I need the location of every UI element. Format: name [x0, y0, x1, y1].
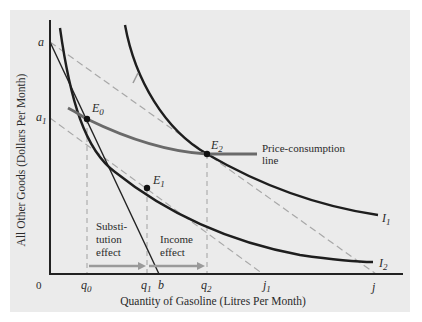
income-effect-arrow: [149, 262, 205, 270]
x-tick-q0: q0: [81, 278, 92, 294]
x-tick-q1: q1: [141, 278, 152, 294]
x-axis-title: Quantity of Gasoline (Litres Per Month): [120, 295, 306, 308]
income-effect-label-2: effect: [160, 246, 185, 258]
origin-label: 0: [36, 279, 42, 291]
point-e1: [144, 185, 150, 191]
substitution-effect-label-2: tution: [96, 233, 122, 245]
label-i1: I1: [381, 211, 391, 227]
stray-tick-mark: [133, 73, 138, 83]
price-consumption-label-line1: Price-consumption: [262, 142, 346, 154]
label-e0: E0: [91, 101, 104, 117]
point-e0: [84, 116, 90, 122]
budget-line-a1-j1: [50, 118, 263, 274]
income-effect-label-1: Income: [160, 233, 193, 245]
label-e2: E2: [210, 138, 223, 154]
y-tick-a: a: [38, 35, 44, 49]
x-tick-j: j: [370, 280, 376, 294]
label-e1: E1: [152, 173, 165, 189]
label-i2: I2: [378, 256, 388, 272]
x-tick-j1: j1: [261, 278, 271, 294]
diagram-svg: E0 E1 E2 I1 I2 Price-consumption line Su…: [0, 0, 422, 322]
substitution-effect-label-3: effect: [96, 246, 121, 258]
y-axis-title: All Other Goods (Dollars Per Month): [15, 73, 28, 246]
y-tick-a1: a1: [36, 110, 47, 126]
substitution-effect-label-1: Substi-: [96, 220, 128, 232]
x-tick-b: b: [158, 278, 164, 292]
substitution-effect-arrow: [89, 262, 146, 270]
x-tick-q2: q2: [201, 278, 212, 294]
point-e2: [204, 151, 210, 157]
price-consumption-label-line2: line: [262, 154, 279, 166]
